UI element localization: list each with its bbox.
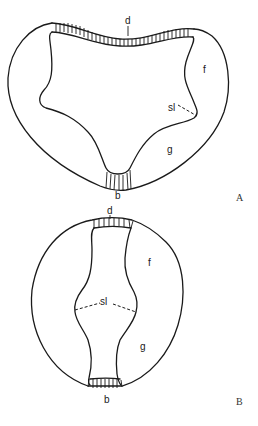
panel-b-label-g: g [140, 341, 146, 352]
panel-b: d f sl g b B [31, 205, 243, 407]
figure-canvas: d f sl g b A [0, 0, 258, 426]
panel-a-dorsal-band-outer [52, 23, 194, 39]
panel-a-label-f: f [203, 64, 206, 75]
panel-b-outer-wall [31, 218, 183, 386]
panel-a-dorsal-hatching [56, 23, 188, 46]
panel-a-suture-line [178, 105, 197, 116]
panel-a-basal-hatching [106, 170, 131, 190]
panel-b-label-b: b [104, 394, 110, 405]
panel-b-dorsal-band-inner [94, 227, 131, 229]
panel-a-label-d: d [125, 15, 131, 26]
panel-b-basal-hatching [88, 379, 122, 388]
panel-b-inner-left-wall [75, 228, 94, 385]
panel-b-label-f: f [148, 257, 151, 268]
panel-a: d f sl g b A [8, 15, 244, 203]
panel-b-title: B [236, 396, 243, 407]
panel-b-label-sl: sl [100, 296, 107, 307]
panel-a-label-g: g [167, 144, 173, 155]
panel-b-label-d: d [107, 205, 113, 216]
panel-a-label-sl: sl [168, 102, 175, 113]
panel-b-basal-band-inner [90, 378, 120, 379]
panel-a-title: A [236, 192, 244, 203]
panel-a-label-b: b [115, 190, 121, 201]
